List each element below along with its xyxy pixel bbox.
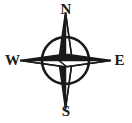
compass-label-east: E: [111, 53, 128, 68]
compass-label-north: N: [0, 2, 132, 17]
compass-label-west: W: [4, 53, 21, 68]
east-arrow-icon: [59, 54, 111, 66]
compass-label-south: S: [0, 104, 132, 119]
compass-rose-figure: N S W E: [0, 0, 132, 123]
